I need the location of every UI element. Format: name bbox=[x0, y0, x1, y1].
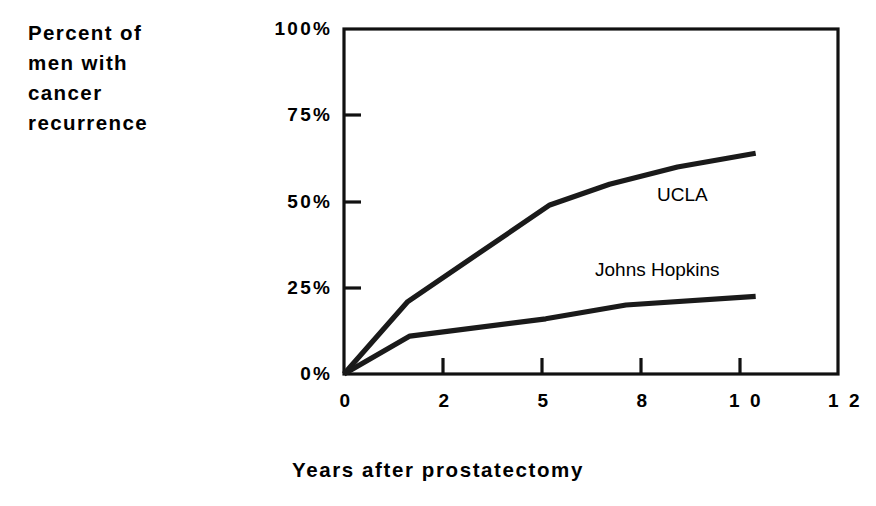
x-axis-title: Years after prostatectomy bbox=[0, 458, 876, 482]
series-annotation-ucla: UCLA bbox=[657, 184, 708, 206]
series-annotation-johns-hopkins: Johns Hopkins bbox=[595, 259, 720, 281]
plot-area bbox=[0, 0, 876, 506]
y-axis-ticks bbox=[344, 115, 361, 288]
axis-frame bbox=[344, 29, 838, 374]
series-line-johns-hopkins bbox=[344, 296, 756, 374]
x-axis-ticks bbox=[443, 358, 740, 374]
chart-figure: Percent of men with cancer recurrence 10… bbox=[0, 0, 876, 506]
